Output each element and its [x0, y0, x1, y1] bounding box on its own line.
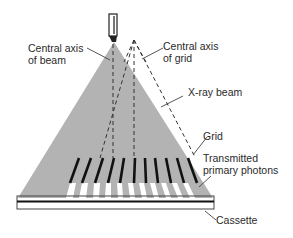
label-line: Transmitted — [203, 152, 278, 164]
label-transmitted-primary-photons: Transmitted primary photons — [203, 152, 278, 176]
cassette-shape — [17, 196, 214, 209]
label-central-axis-beam: Central axis of beam — [28, 42, 83, 66]
label-grid: Grid — [203, 130, 223, 142]
label-xray-beam: X-ray beam — [188, 86, 242, 98]
xray-tube-icon — [109, 14, 117, 42]
label-line: of grid — [163, 52, 218, 64]
diagram-graphics — [0, 0, 293, 238]
label-cassette: Cassette — [216, 214, 257, 226]
label-line: Central axis — [28, 42, 83, 54]
grid-diagram: Central axis of beam Central axis of gri… — [0, 0, 293, 238]
label-line: primary photons — [203, 164, 278, 176]
label-line: of beam — [28, 54, 83, 66]
label-central-axis-grid: Central axis of grid — [163, 40, 218, 64]
label-line: Central axis — [163, 40, 218, 52]
